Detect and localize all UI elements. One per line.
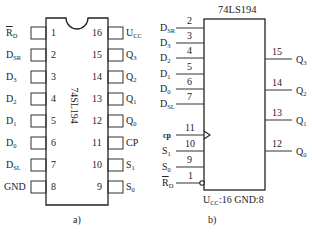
diagram-lines — [0, 0, 312, 233]
pin-number: 14 — [272, 78, 282, 88]
pin-number: 4 — [51, 94, 56, 104]
pin-label-d0: D0 — [160, 84, 170, 97]
pin-number: 11 — [185, 123, 195, 133]
pin-label-cp: CP — [126, 138, 138, 148]
chip-label: 74SL194 — [69, 87, 80, 124]
pin-number: 13 — [272, 108, 282, 118]
pin-label-s1: S1 — [126, 160, 135, 173]
inversion-bubble-icon — [200, 181, 204, 185]
pin-label-dsl: DSL — [160, 99, 175, 112]
pin-label-d2: D2 — [160, 53, 170, 66]
pin-label-rd: RD — [6, 28, 17, 41]
pin-label-q3: Q3 — [296, 55, 306, 68]
pin-label-ucc: UCC — [126, 28, 142, 41]
caption-b: b) — [208, 214, 216, 225]
pin-number: 3 — [187, 31, 192, 41]
pin-number: 6 — [51, 138, 56, 148]
pin-number: 10 — [92, 160, 102, 170]
pin-number: 7 — [51, 160, 56, 170]
pin-label-dsl: DSL — [6, 160, 21, 173]
pin-number: 10 — [185, 139, 195, 149]
pin-number: 12 — [272, 139, 282, 149]
pin-number: 2 — [51, 50, 56, 60]
pin-label-d3: D3 — [160, 38, 170, 51]
pin-number: 4 — [187, 46, 192, 56]
pin-number: 1 — [188, 171, 193, 181]
clock-triangle-icon — [204, 131, 210, 139]
pin-label-s0: S0 — [162, 162, 171, 175]
pin-number: 15 — [272, 47, 282, 57]
logic-symbol-title: 74LS194 — [218, 5, 257, 15]
pin-number: 5 — [187, 62, 192, 72]
pin-number: 6 — [187, 77, 192, 87]
pin-label-d2: D2 — [6, 94, 16, 107]
pin-label-q0: Q0 — [296, 147, 306, 160]
pin-label-d0: D0 — [6, 138, 16, 151]
pin-label-dsr: DSR — [160, 23, 175, 36]
left-pin-boxes — [31, 27, 46, 193]
pin-number: 11 — [92, 138, 102, 148]
pin-number: 1 — [51, 28, 56, 38]
pin-number: 5 — [51, 116, 56, 126]
pin-number: 16 — [92, 28, 102, 38]
pin-number: 9 — [187, 155, 192, 165]
pin-label-q0: Q0 — [126, 116, 136, 129]
pin-label-d3: D3 — [6, 72, 16, 85]
logic-symbol-body — [204, 19, 265, 190]
pin-label-q1: Q1 — [126, 94, 136, 107]
pin-number: 15 — [92, 50, 102, 60]
pin-label-q2: Q2 — [296, 86, 306, 99]
pin-label-rd: RD — [162, 178, 173, 191]
pin-label-q1: Q1 — [296, 116, 306, 129]
pin-label-s0: S0 — [126, 182, 135, 195]
pin-label-q2: Q2 — [126, 72, 136, 85]
pin-number: 3 — [51, 72, 56, 82]
pin-label-cp: cp — [163, 131, 171, 141]
caption-a: a) — [73, 214, 81, 225]
pin-number: 2 — [187, 16, 192, 26]
power-pin-note: UCC:16 GND:8 — [203, 195, 264, 208]
pin-number: 13 — [92, 94, 102, 104]
pin-label-dsr: DSR — [6, 50, 21, 63]
pin-number: 9 — [97, 182, 102, 192]
right-pin-boxes — [108, 27, 123, 193]
pin-label-s1: S1 — [162, 146, 171, 159]
pin-label-gnd: GND — [4, 182, 26, 192]
pin-label-d1: D1 — [6, 116, 16, 129]
pin-number: 7 — [187, 92, 192, 102]
pin-number: 12 — [92, 116, 102, 126]
pin-label-q3: Q3 — [126, 50, 136, 63]
pin-number: 8 — [51, 182, 56, 192]
pin-number: 14 — [92, 72, 102, 82]
pin-label-d1: D1 — [160, 69, 170, 82]
